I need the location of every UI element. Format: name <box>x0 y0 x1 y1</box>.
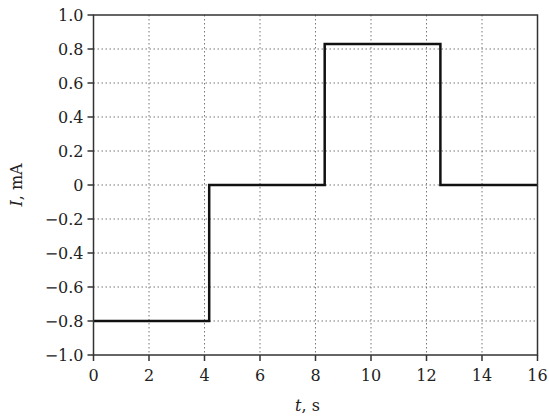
y-tick-labels: 1.00.80.60.40.20−0.2−0.4−0.6−0.8−1.0 <box>45 6 84 365</box>
y-tick-label: 0.2 <box>58 142 83 161</box>
x-tick-label: 10 <box>361 366 381 385</box>
y-tick-label: 0 <box>73 176 83 195</box>
x-tick-label: 4 <box>199 366 209 385</box>
y-tick-label: −0.8 <box>45 312 84 331</box>
x-tick-label: 16 <box>527 366 547 385</box>
y-tick-label: −1.0 <box>45 346 84 365</box>
y-tick-label: 0.6 <box>58 74 83 93</box>
chart: 0246810121416 1.00.80.60.40.20−0.2−0.4−0… <box>0 0 549 418</box>
y-tick-label: 0.8 <box>58 40 83 59</box>
x-axis-label: t, s <box>295 396 320 415</box>
x-tick-label: 14 <box>472 366 492 385</box>
y-tick-label: −0.2 <box>45 210 84 229</box>
y-tick-label: −0.6 <box>45 278 84 297</box>
x-tick-labels: 0246810121416 <box>88 366 547 385</box>
y-axis-label: I, mA <box>7 163 26 208</box>
x-tick-label: 8 <box>310 366 320 385</box>
x-axis-unit: , s <box>302 396 320 415</box>
x-tick-label: 0 <box>88 366 98 385</box>
x-tick-label: 12 <box>416 366 436 385</box>
y-tick-label: 1.0 <box>58 6 83 25</box>
y-axis-unit: , mA <box>7 163 26 200</box>
axis-ticks <box>88 15 538 361</box>
x-tick-label: 6 <box>255 366 265 385</box>
y-tick-label: −0.4 <box>45 244 84 263</box>
x-tick-label: 2 <box>144 366 154 385</box>
y-tick-label: 0.4 <box>58 108 83 127</box>
